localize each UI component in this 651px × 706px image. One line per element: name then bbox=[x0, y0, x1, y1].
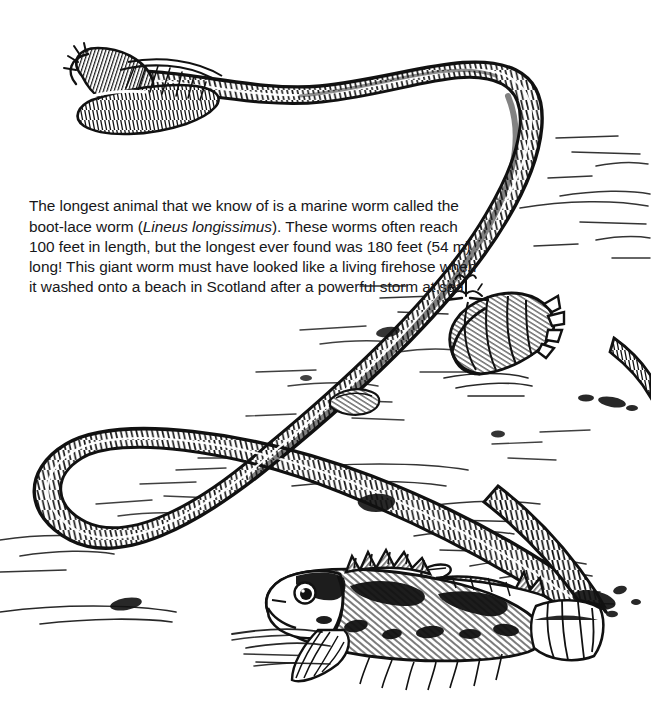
pebble bbox=[109, 595, 143, 612]
beach-scene-illustration bbox=[0, 0, 651, 706]
scientific-name: Lineus longissimus bbox=[143, 218, 272, 235]
worm-tail bbox=[484, 338, 651, 623]
caudal-fin bbox=[531, 600, 603, 660]
caption-text: The longest animal that we know of is a … bbox=[29, 176, 477, 298]
worm-head bbox=[64, 43, 222, 134]
pebble bbox=[300, 375, 312, 381]
conch-shell bbox=[444, 293, 564, 396]
illustration-page: The longest animal that we know of is a … bbox=[0, 0, 651, 706]
pebble bbox=[491, 431, 505, 438]
